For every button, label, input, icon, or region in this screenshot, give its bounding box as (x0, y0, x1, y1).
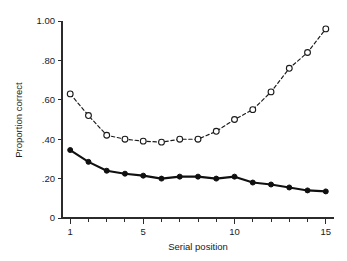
y-tick-label: .80 (42, 55, 55, 66)
filled-circle-data-point (323, 189, 328, 194)
filled-circle-data-point (177, 174, 182, 179)
filled-circle-data-point (305, 188, 310, 193)
filled-circle-data-point (86, 159, 91, 164)
y-tick-label: 1.00 (37, 15, 56, 26)
open-circle-series-line (70, 29, 326, 142)
filled-circle-data-point (68, 148, 73, 153)
y-axis-title: Proportion correct (13, 82, 24, 158)
open-circle-data-point (195, 136, 201, 142)
y-axis-ticks: 0.20.40.60.801.00 (37, 15, 63, 223)
open-circle-data-point (67, 91, 73, 97)
x-tick-label: 1 (68, 226, 73, 237)
open-circle-data-point (213, 128, 219, 134)
filled-circle-data-point (250, 180, 255, 185)
open-circle-data-point (122, 136, 128, 142)
filled-circle-data-point (232, 174, 237, 179)
open-circle-data-point (268, 89, 274, 95)
filled-circle-data-point (122, 171, 127, 176)
x-tick-label: 5 (141, 226, 146, 237)
filled-circle-data-point (269, 182, 274, 187)
chart-canvas: 0.20.40.60.801.00 151015 Serial position… (0, 0, 347, 261)
open-circle-data-point (305, 50, 311, 56)
open-circle-data-point (286, 65, 292, 71)
y-tick-label: 0 (50, 212, 55, 223)
filled-circle-data-point (287, 185, 292, 190)
x-tick-label: 10 (229, 226, 240, 237)
open-circle-data-point (140, 138, 146, 144)
open-circle-data-point (159, 139, 165, 145)
open-circle-data-point (232, 117, 238, 123)
y-tick-label: .60 (42, 94, 55, 105)
x-tick-label: 15 (320, 226, 331, 237)
y-tick-label: .40 (42, 134, 55, 145)
filled-circle-markers (68, 148, 329, 194)
filled-circle-data-point (159, 176, 164, 181)
y-tick-label: .20 (42, 173, 55, 184)
filled-circle-data-point (214, 176, 219, 181)
open-circle-data-point (86, 113, 92, 119)
serial-position-chart-figure: 0.20.40.60.801.00 151015 Serial position… (0, 0, 347, 261)
open-circle-data-point (177, 136, 183, 142)
x-axis-ticks: 151015 (68, 218, 332, 237)
open-circle-markers (67, 26, 328, 145)
filled-circle-data-point (104, 168, 109, 173)
x-axis-title: Serial position (168, 241, 228, 252)
open-circle-data-point (250, 107, 256, 113)
filled-circle-data-point (141, 173, 146, 178)
open-circle-data-point (104, 132, 110, 138)
open-circle-data-point (323, 26, 329, 32)
filled-circle-data-point (196, 174, 201, 179)
chart-series-group (67, 26, 328, 194)
